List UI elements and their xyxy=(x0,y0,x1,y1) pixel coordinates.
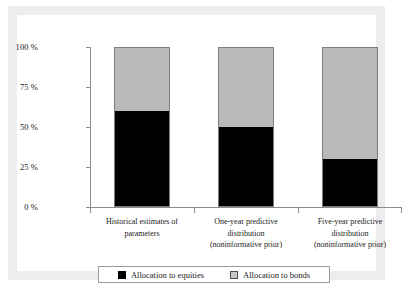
x-category-label-2-line-2: (noninformative prior) xyxy=(291,239,403,251)
x-category-label-1-line-2: (noninformative prior) xyxy=(187,239,305,251)
x-category-label-0: Historical estimates of parameters xyxy=(83,216,201,239)
legend-label-bonds: Allocation to bonds xyxy=(243,270,310,280)
y-tick-25 xyxy=(86,167,91,168)
x-axis-line xyxy=(90,207,402,208)
y-axis-line xyxy=(90,47,91,209)
bar-one-year-predictive[interactable] xyxy=(218,47,274,207)
y-tick-label-0: 0 % xyxy=(0,202,38,212)
x-category-label-1-line-0: One-year predictive xyxy=(187,216,305,228)
plot-area: 100 % 75 % 50 % 25 % 0 % xyxy=(34,30,393,286)
x-tick-1 xyxy=(194,208,195,213)
x-category-label-1-line-1: distribution xyxy=(187,228,305,240)
bar-five-year-predictive[interactable] xyxy=(322,47,378,207)
y-tick-75 xyxy=(86,87,91,88)
figure-frame: 100 % 75 % 50 % 25 % 0 % xyxy=(8,6,385,280)
chart-legend: Allocation to equities Allocation to bon… xyxy=(98,266,330,283)
y-tick-label-100: 100 % xyxy=(0,42,38,52)
legend-item-bonds[interactable]: Allocation to bonds xyxy=(230,270,310,280)
bar-segment-equities-2 xyxy=(323,159,377,206)
legend-swatch-bonds-icon xyxy=(230,271,238,279)
y-tick-100 xyxy=(86,47,91,48)
x-category-label-1: One-year predictive distribution (noninf… xyxy=(187,216,305,251)
bar-historical-estimates[interactable] xyxy=(114,47,170,207)
x-category-label-0-line-0: Historical estimates of xyxy=(83,216,201,228)
x-tick-start xyxy=(90,208,91,213)
stacked-bar-chart-figure: 100 % 75 % 50 % 25 % 0 % xyxy=(0,0,403,301)
x-category-label-2: Five-year predictive distribution (nonin… xyxy=(291,216,403,251)
bar-segment-equities-0 xyxy=(115,111,169,206)
x-tick-2 xyxy=(298,208,299,213)
x-tick-end xyxy=(401,208,402,213)
y-tick-50 xyxy=(86,127,91,128)
bar-segment-equities-1 xyxy=(219,127,273,206)
legend-swatch-equities-icon xyxy=(118,271,126,279)
y-tick-label-75: 75 % xyxy=(0,82,38,92)
legend-item-equities[interactable]: Allocation to equities xyxy=(118,270,204,280)
x-category-label-2-line-0: Five-year predictive xyxy=(291,216,403,228)
x-category-label-2-line-1: distribution xyxy=(291,228,403,240)
y-tick-label-50: 50 % xyxy=(0,122,38,132)
legend-label-equities: Allocation to equities xyxy=(131,270,204,280)
y-tick-label-25: 25 % xyxy=(0,162,38,172)
x-category-label-0-line-1: parameters xyxy=(83,228,201,240)
